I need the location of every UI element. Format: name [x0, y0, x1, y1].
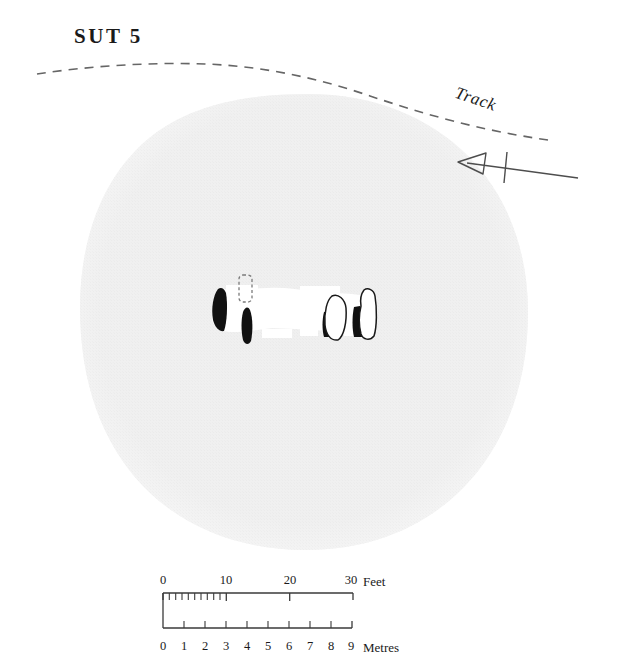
metres-tick-label-9: 9	[348, 639, 354, 654]
metres-tick-label-1: 1	[181, 639, 187, 654]
feet-tick-label-20: 20	[284, 573, 297, 588]
metres-unit-label: Metres	[363, 640, 399, 656]
plan-drawing	[0, 0, 638, 665]
metres-tick-label-8: 8	[328, 639, 334, 654]
feet-tick-label-0: 0	[160, 573, 166, 588]
site-plan: SUT 5 Track 0 10 20 30 Feet 0 1 2 3 4 5 …	[0, 0, 638, 665]
metres-tick-label-7: 7	[307, 639, 313, 654]
metres-tick-label-0: 0	[160, 639, 166, 654]
feet-tick-label-30: 30	[345, 573, 358, 588]
metres-tick-label-3: 3	[223, 639, 229, 654]
page-title: SUT 5	[74, 24, 143, 49]
feet-tick-label-10: 10	[220, 573, 233, 588]
feet-unit-label: Feet	[363, 574, 385, 590]
metres-tick-label-2: 2	[202, 639, 208, 654]
metres-tick-label-6: 6	[286, 639, 292, 654]
metres-tick-label-5: 5	[265, 639, 271, 654]
scale-bar	[163, 593, 353, 628]
metres-tick-label-4: 4	[244, 639, 250, 654]
